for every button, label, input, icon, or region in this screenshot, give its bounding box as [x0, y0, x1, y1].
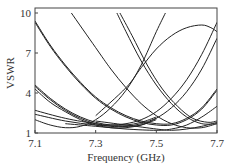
x-axis-label: Frequency (GHz): [87, 151, 165, 164]
data-curves: [35, 13, 217, 130]
y-axis-label: VSWR: [4, 56, 16, 88]
vswr-curve: [71, 13, 217, 128]
y-tick-label: 10: [20, 7, 32, 19]
vswr-curve: [96, 25, 217, 116]
vswr-chart: 7.17.37.57.714710 Frequency (GHz) VSWR: [0, 0, 225, 168]
y-tick-label: 4: [26, 87, 32, 99]
vswr-curve: [35, 38, 217, 126]
y-tick-label: 7: [26, 47, 32, 59]
y-tick-label: 1: [26, 127, 32, 139]
x-tick-label: 7.5: [149, 137, 163, 149]
x-tick-label: 7.7: [210, 137, 224, 149]
vswr-curve: [35, 13, 165, 128]
x-tick-label: 7.3: [89, 137, 103, 149]
